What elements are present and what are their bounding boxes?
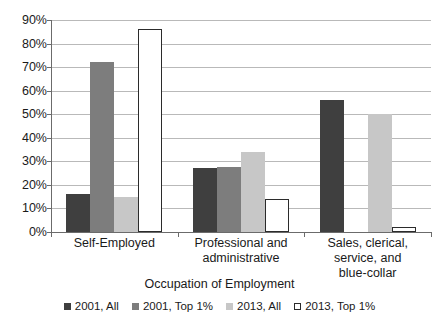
- y-axis-tick-label: 70%: [3, 61, 47, 74]
- y-axis-tick-label: 40%: [3, 132, 47, 145]
- x-axis-category-label-line: Sales, clerical,: [306, 236, 429, 251]
- bar-group-bars: [178, 20, 305, 232]
- legend-label: 2013, All: [237, 300, 281, 312]
- bar[interactable]: [114, 197, 138, 232]
- bar[interactable]: [66, 194, 90, 232]
- legend-item[interactable]: 2001, All: [64, 300, 119, 312]
- y-axis-tick: [47, 208, 51, 209]
- bar[interactable]: [368, 114, 392, 232]
- bar-groups: [51, 20, 431, 232]
- bar[interactable]: [90, 62, 114, 232]
- legend-item[interactable]: 2013, All: [226, 300, 281, 312]
- y-axis-tick-label: 50%: [3, 108, 47, 121]
- bar-group-bars: [304, 20, 431, 232]
- bar[interactable]: [320, 100, 344, 232]
- bar[interactable]: [265, 199, 289, 232]
- chart-legend: 2001, All2001, Top 1%2013, All2013, Top …: [0, 300, 439, 312]
- legend-item[interactable]: 2001, Top 1%: [132, 300, 213, 312]
- bar[interactable]: [217, 167, 241, 232]
- legend-swatch-icon: [132, 303, 139, 310]
- x-axis-category-label-line: Professional and: [180, 236, 303, 251]
- legend-swatch-icon: [64, 303, 71, 310]
- legend-label: 2001, All: [75, 300, 119, 312]
- y-axis-tick: [47, 67, 51, 68]
- y-axis-tick: [47, 44, 51, 45]
- bar-group: [304, 20, 431, 232]
- y-axis-tick: [47, 20, 51, 21]
- x-axis-category-label: Self-Employed: [51, 236, 178, 281]
- y-axis-tick: [47, 114, 51, 115]
- bar-group-bars: [51, 20, 178, 232]
- y-axis-tick-label: 90%: [3, 14, 47, 27]
- plot-area: [51, 20, 431, 232]
- y-axis-tick-label: 10%: [3, 202, 47, 215]
- x-axis-category-label: Sales, clerical,service, andblue-collar: [304, 236, 431, 281]
- y-axis-tick-label: 20%: [3, 179, 47, 192]
- y-axis-tick-label: 30%: [3, 155, 47, 168]
- legend-swatch-icon: [294, 303, 301, 310]
- x-axis-category-label: Professional andadministrative: [178, 236, 305, 281]
- x-axis-category-label-line: Self-Employed: [53, 236, 176, 251]
- legend-item[interactable]: 2013, Top 1%: [294, 300, 375, 312]
- y-axis-tick-label: 0%: [3, 226, 47, 239]
- x-axis-category-label-line: administrative: [180, 251, 303, 266]
- legend-label: 2013, Top 1%: [305, 300, 375, 312]
- y-axis-tick: [47, 91, 51, 92]
- y-axis-tick: [47, 138, 51, 139]
- legend-label: 2001, Top 1%: [143, 300, 213, 312]
- x-axis-tick: [431, 232, 432, 237]
- y-axis-tick-label: 80%: [3, 38, 47, 51]
- bar[interactable]: [138, 29, 162, 232]
- x-axis-line: [51, 232, 431, 233]
- bar-chart: 0%10%20%30%40%50%60%70%80%90% Self-Emplo…: [0, 0, 439, 320]
- x-axis-category-label-line: service, and: [306, 251, 429, 266]
- legend-swatch-icon: [226, 303, 233, 310]
- y-axis-labels: 0%10%20%30%40%50%60%70%80%90%: [0, 20, 47, 233]
- x-axis-category-labels: Self-EmployedProfessional andadministrat…: [51, 236, 431, 281]
- bar[interactable]: [241, 152, 265, 232]
- x-axis-title: Occupation of Employment: [0, 277, 439, 291]
- bar[interactable]: [193, 168, 217, 232]
- y-axis-tick: [47, 161, 51, 162]
- bar-group: [51, 20, 178, 232]
- y-axis-tick-label: 60%: [3, 85, 47, 98]
- y-axis-tick: [47, 185, 51, 186]
- bar-group: [178, 20, 305, 232]
